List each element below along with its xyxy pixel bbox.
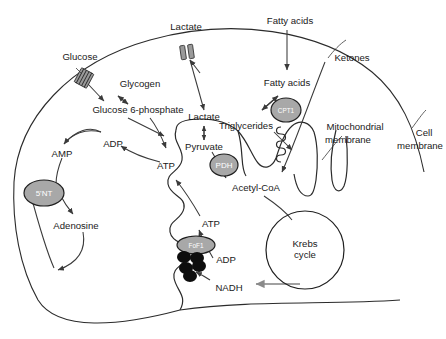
label-amp: AMP [52, 148, 73, 159]
arrow-atp-to-adp [121, 146, 160, 162]
arrow-amp-to-5nt [56, 158, 62, 184]
label-cell-membrane-line2: membrane [397, 140, 443, 151]
arrow-nadh-to-etc [196, 272, 210, 280]
enzyme-pdh-label: PDH [216, 161, 233, 170]
electron-transport-complexes-icon [177, 251, 206, 282]
label-mito-membrane-line2: membrane [325, 134, 371, 145]
arrow-adp-to-amp [64, 131, 101, 144]
label-adp: ADP [103, 138, 123, 149]
label-adenosine: Adenosine [53, 220, 98, 231]
enzyme-5nt-label: 5'NT [36, 189, 53, 198]
label-fatty-acids-cytosol: Fatty acids [264, 77, 311, 88]
label-atp: ATP [157, 160, 175, 171]
arrow-glycogen-g6p [118, 96, 128, 104]
label-pyruvate: Pyruvate [185, 141, 223, 152]
label-lactate-extracellular: Lactate [170, 21, 201, 32]
glucose-transporter-icon [74, 68, 94, 89]
label-glucose-extracellular: Glucose [62, 51, 97, 62]
arrow-glucose-in [88, 84, 104, 101]
arrow-lactate-in-from-membrane [190, 60, 204, 110]
label-nadh: NADH [215, 282, 242, 293]
enzyme-5nt: 5'NT [24, 180, 64, 206]
label-fatty-acids-extracellular: Fatty acids [267, 15, 314, 26]
lactate-transporter-icon [180, 44, 195, 60]
label-glycogen: Glycogen [120, 78, 161, 89]
arrow-acetylcoa-to-krebs [264, 196, 292, 220]
arrow-5nt-to-adenosine [62, 198, 73, 214]
leader-cell-membrane [412, 110, 426, 128]
krebs-label-line2: cycle [294, 249, 316, 260]
arrow-g6p-to-adp [128, 118, 164, 136]
enzyme-pdh: PDH [210, 154, 238, 176]
label-glucose-6-phosphate: Glucose 6-phosphate [92, 104, 183, 115]
label-cell-membrane-line1: Cell [416, 127, 433, 138]
label-mito-membrane-line1: Mitochondrial [326, 121, 383, 132]
figure-canvas: 5'NT PDH CPT1 FoF1 Krebs cycle [0, 0, 446, 339]
enzyme-fof1-label: FoF1 [189, 242, 204, 249]
label-acetyl-coa: Acetyl-CoA [232, 182, 281, 193]
label-triglycerides: Triglycerides [219, 120, 273, 131]
label-ketones: Ketones [334, 52, 369, 63]
krebs-label-line1: Krebs [292, 238, 317, 249]
label-adp-mitochondrial: ADP [216, 254, 236, 265]
krebs-cycle-circle: Krebs cycle [266, 211, 344, 289]
label-atp-mitochondrial: ATP [202, 218, 220, 229]
metabolism-diagram: 5'NT PDH CPT1 FoF1 Krebs cycle [0, 0, 446, 339]
arrow-adenosine-out [58, 232, 84, 270]
enzyme-cpt1-label: CPT1 [278, 107, 295, 114]
enzyme-cpt1: CPT1 [271, 98, 301, 122]
label-lactate-cytosol: Lactate [188, 111, 219, 122]
